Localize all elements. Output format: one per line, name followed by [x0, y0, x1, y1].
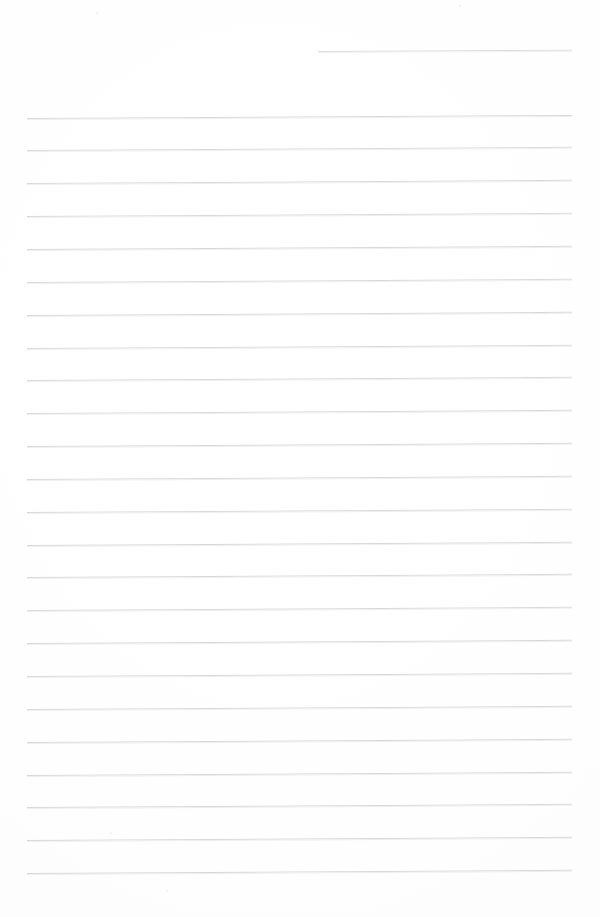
ruled-line: [27, 837, 572, 841]
ruled-line: [27, 410, 572, 414]
scanned-page: Blank Ruled Notebook Page: [0, 0, 600, 917]
ruled-line: [27, 640, 572, 644]
ruled-line: [27, 213, 572, 217]
ruled-line: [27, 870, 572, 874]
ruled-line: [27, 509, 572, 513]
scan-speck: [166, 890, 168, 892]
ruled-line: [27, 443, 572, 447]
ruled-line: [27, 180, 572, 184]
ruled-line: [27, 147, 572, 151]
ruled-line: [27, 771, 572, 775]
ruled-line: [27, 279, 572, 283]
ruled-line: [27, 476, 572, 480]
ruled-line: [27, 246, 572, 250]
ruled-lines-layer: [0, 0, 600, 917]
scan-speck: [110, 832, 112, 834]
ruled-line: [27, 574, 572, 578]
scan-speck: [459, 5, 461, 7]
ruled-line: [27, 311, 572, 315]
ruled-line: [27, 673, 572, 677]
ruled-line: [27, 114, 572, 118]
ruled-line: [27, 344, 572, 348]
ruled-line: [27, 607, 572, 611]
ruled-line: [27, 541, 572, 545]
ruled-line-partial: [318, 49, 572, 51]
ruled-line: [27, 377, 572, 381]
ruled-line: [27, 738, 572, 742]
ruled-line: [27, 706, 572, 710]
scan-speck: [96, 12, 98, 14]
ruled-line: [27, 804, 572, 808]
